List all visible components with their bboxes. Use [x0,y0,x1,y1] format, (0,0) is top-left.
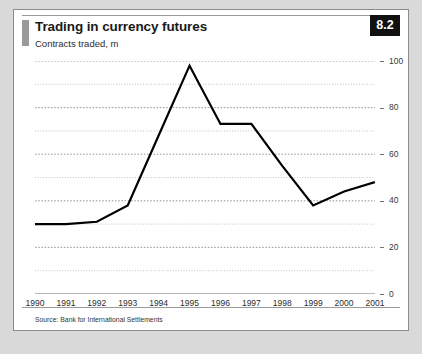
y-axis-tick [380,294,384,295]
y-axis-tick [380,201,384,202]
y-axis-label: 100 [389,56,403,66]
data-series-line [35,66,375,224]
y-axis-tick [380,108,384,109]
chart-subtitle: Contracts traded, m [35,38,118,49]
x-axis-labels: 1990199119921993199419951996199719981999… [35,298,375,312]
y-axis-tick [380,154,384,155]
chart-canvas [35,61,375,294]
plot-area [35,61,375,294]
y-axis-label: 20 [389,242,398,252]
y-axis-label: 40 [389,195,398,205]
y-axis-label: 80 [389,102,398,112]
footer-divider [22,307,400,308]
y-axis-label: 60 [389,149,398,159]
source-note: Source: Bank for International Settlemen… [35,316,163,323]
figure-header: Trading in currency futures Contracts tr… [14,10,408,58]
y-axis-label: 0 [389,289,394,299]
y-axis-labels: 020406080100 [380,61,410,294]
header-divider [22,15,400,16]
y-axis-tick [380,247,384,248]
chart-title: Trading in currency futures [35,19,207,34]
title-accent-bar [22,20,29,46]
chart-figure: Trading in currency futures Contracts tr… [13,9,409,331]
y-axis-tick [380,61,384,62]
figure-number-badge: 8.2 [370,15,400,36]
